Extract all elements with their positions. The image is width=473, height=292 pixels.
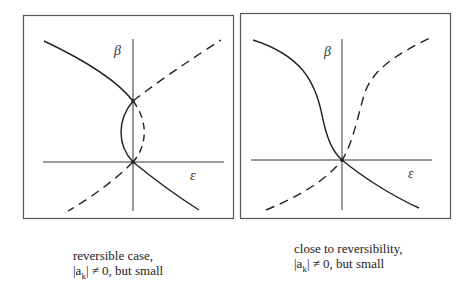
bifurcation-point [131, 99, 135, 103]
dashed-branch [133, 40, 221, 101]
bifurcation-point [131, 160, 135, 164]
caption-reversible: reversible case, |ak| ≠ 0, but small [73, 248, 163, 284]
epsilon-label: ε [190, 168, 196, 183]
solid-branch [253, 40, 419, 208]
dashed-branch [266, 38, 430, 210]
panel-frame [241, 14, 451, 219]
crossing-point [340, 158, 344, 162]
caption-line1: close to reversibility, [294, 241, 403, 256]
caption-line1: reversible case, [73, 248, 163, 263]
beta-label: β [323, 44, 331, 59]
dashed-loop [133, 101, 144, 162]
epsilon-label: ε [408, 166, 414, 181]
solid-loop [121, 101, 133, 162]
beta-label: β [113, 43, 121, 58]
panel-close-to-reversibility: β ε [241, 14, 451, 219]
caption-close-to-reversibility: close to reversibility, |ak| ≠ 0, but sm… [294, 241, 403, 277]
dashed-branch-lower [68, 162, 133, 211]
caption-line2: |ak| ≠ 0, but small [294, 256, 403, 277]
panel-reversible: β ε [24, 16, 234, 219]
caption-line2: |ak| ≠ 0, but small [73, 263, 163, 284]
